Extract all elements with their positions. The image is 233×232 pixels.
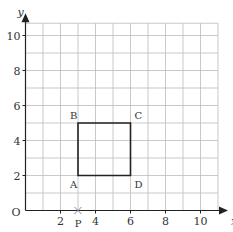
y-tick-label: 6 <box>14 100 21 113</box>
point-p-label: P <box>75 218 82 229</box>
square-abcd <box>78 123 131 176</box>
x-axis-label: x <box>231 215 233 228</box>
coordinate-grid: xyO246810246810ABCDP <box>0 0 233 232</box>
x-tick-label: 6 <box>127 215 134 228</box>
y-tick-label: 8 <box>14 65 21 78</box>
vertex-label-c: C <box>135 110 143 121</box>
y-tick-label: 2 <box>14 170 21 183</box>
y-axis-label: y <box>17 6 25 19</box>
vertex-label-d: D <box>135 179 143 190</box>
y-tick-label: 4 <box>14 135 21 148</box>
x-tick-label: 4 <box>92 215 99 228</box>
origin-label: O <box>12 206 21 219</box>
vertex-label-b: B <box>70 110 77 121</box>
x-tick-label: 10 <box>194 215 208 228</box>
x-axis-arrow-icon <box>219 207 228 215</box>
x-tick-label: 8 <box>162 215 169 228</box>
vertex-label-a: A <box>69 179 78 190</box>
y-tick-label: 10 <box>7 30 21 43</box>
x-tick-label: 2 <box>57 215 64 228</box>
